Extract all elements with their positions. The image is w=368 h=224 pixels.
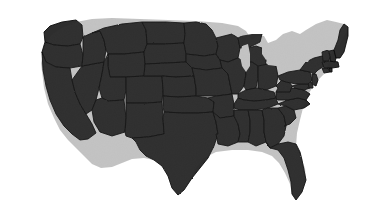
us-map-figure: Map of the contiguous United States	[0, 0, 368, 224]
us-map-image: Map of the contiguous United States	[0, 0, 368, 224]
state-rhode-island	[329, 68, 332, 72]
